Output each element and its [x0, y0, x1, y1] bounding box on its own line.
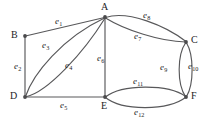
edge-e7: [106, 18, 186, 42]
edge-e9: [179, 43, 186, 97]
edge-e4: [26, 19, 105, 97]
vertex-dot-C: [184, 40, 188, 44]
vertex-label-E: E: [101, 101, 107, 111]
edge-layer: [25, 16, 192, 108]
edge-label-e3-sub: 3: [46, 44, 49, 51]
edge-label-e12-sub: 12: [138, 111, 144, 118]
vertex-dot-D: [23, 95, 27, 99]
edge-label-e5-sub: 5: [64, 104, 67, 111]
vertex-dot-E: [103, 95, 107, 99]
vertex-dot-A: [103, 15, 107, 19]
edge-label-e12: e12: [134, 108, 144, 117]
edge-label-e9: e9: [160, 63, 167, 72]
edge-label-e7: e7: [134, 32, 141, 41]
edge-label-e2-sub: 2: [18, 65, 21, 72]
edge-label-e2: e2: [14, 62, 21, 71]
edge-label-e6-sub: 6: [101, 57, 104, 64]
edge-label-e11-sub: 11: [137, 80, 143, 87]
vertex-dot-F: [184, 95, 188, 99]
edge-label-e3: e3: [42, 41, 49, 50]
edge-label-e10: e10: [188, 62, 198, 71]
vertex-label-D: D: [10, 91, 17, 101]
edge-e11: [106, 87, 186, 97]
edge-label-e10-sub: 10: [192, 65, 198, 72]
edge-label-e1: e1: [55, 17, 62, 26]
vertex-label-A: A: [101, 2, 108, 12]
edge-label-e8-sub: 8: [147, 14, 150, 21]
edge-e3: [26, 18, 105, 97]
edge-label-e5: e5: [60, 101, 67, 110]
edge-label-e4: e4: [65, 61, 72, 70]
edge-label-e9-sub: 9: [164, 66, 167, 73]
vertex-label-F: F: [191, 91, 197, 101]
edge-label-e4-sub: 4: [69, 64, 72, 71]
edge-e1: [26, 18, 105, 37]
graph-diagram: A B C D E F e1 e2 e3 e4 e5 e6 e7 e8 e9 e…: [0, 0, 211, 122]
edge-label-e11: e11: [133, 77, 143, 86]
edge-label-e6: e6: [97, 54, 104, 63]
edge-label-e8: e8: [143, 11, 150, 20]
edge-e12: [106, 97, 186, 107]
vertex-label-C: C: [191, 35, 198, 45]
vertex-label-B: B: [11, 30, 18, 40]
edge-label-e7-sub: 7: [138, 35, 141, 42]
edge-label-e1-sub: 1: [59, 20, 62, 27]
vertex-dot-B: [23, 34, 27, 38]
